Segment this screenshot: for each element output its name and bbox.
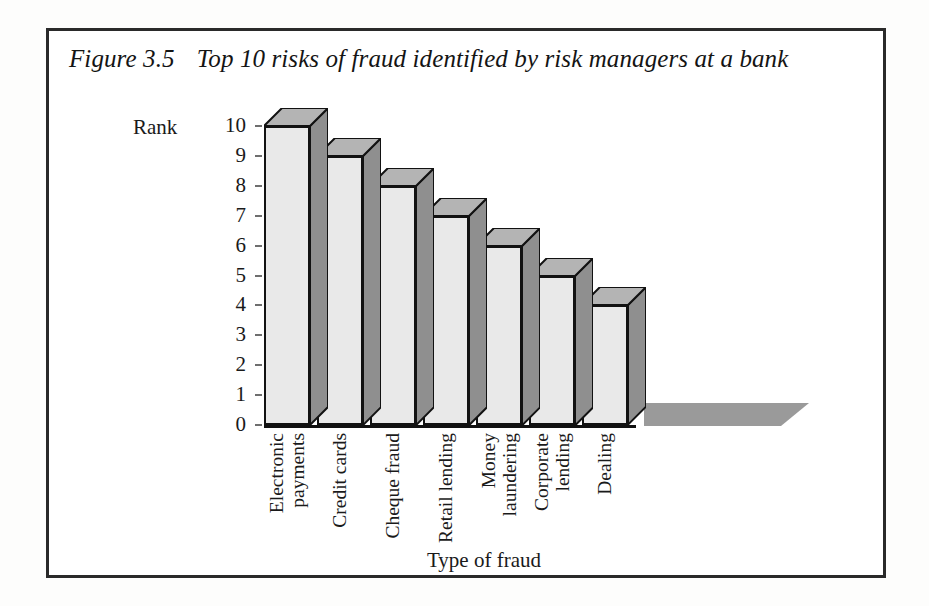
y-axis-tick-label: 1: [212, 384, 246, 405]
y-axis-tick-mark: [255, 155, 262, 157]
y-axis-tick-label: 4: [212, 294, 246, 315]
y-axis-tick-mark: [255, 364, 262, 366]
y-axis-tick-label: 8: [212, 175, 246, 196]
y-axis-tick-label: 7: [212, 205, 246, 226]
x-axis-tick-label-line: lending: [553, 433, 573, 492]
x-axis-tick-label: Moneylaundering: [476, 433, 522, 551]
y-axis-tick-label: 6: [212, 235, 246, 256]
x-axis-tick-label: Credit cards: [317, 433, 363, 551]
x-axis-tick-label: Corporatelending: [529, 433, 575, 551]
x-axis-tick-label-line: Electronic: [267, 433, 287, 513]
y-axis-tick-label: 10: [212, 115, 246, 136]
chart-floor-plane: [644, 403, 809, 426]
x-axis-tick-label: Cheque fraud: [370, 433, 416, 551]
y-axis-tick-mark: [255, 334, 262, 336]
y-axis-tick-label: 3: [212, 324, 246, 345]
y-axis-tick-label: 9: [212, 145, 246, 166]
x-axis-tick-label-line: Dealing: [595, 433, 615, 495]
bar-column[interactable]: [264, 104, 328, 425]
x-axis-tick-label: Retail lending: [423, 433, 469, 551]
bar-series: [264, 86, 664, 425]
x-axis-tick-label-line: payments: [288, 433, 308, 508]
x-axis-tick-label: Electronicpayments: [264, 433, 310, 551]
x-axis-tick-label-line: Money: [479, 433, 499, 488]
y-axis-tick-mark: [255, 424, 262, 426]
x-axis-tick-label: Dealing: [582, 433, 628, 551]
y-axis-tick-mark: [255, 125, 262, 127]
x-axis-line: [264, 425, 636, 428]
y-axis-tick-label: 0: [212, 414, 246, 435]
y-axis-tick-mark: [255, 304, 262, 306]
y-axis-tick-label: 5: [212, 265, 246, 286]
x-axis-tick-label-line: Cheque fraud: [383, 433, 403, 539]
y-axis-title: Rank: [133, 115, 177, 140]
x-axis-tick-label-line: laundering: [500, 433, 520, 516]
x-axis-tick-label-line: Credit cards: [330, 433, 350, 528]
chart-plot-area: Rank 109876543210 ElectronicpaymentsCred…: [49, 31, 889, 581]
figure-page: Figure 3.5Top 10 risks of fraud identifi…: [0, 0, 929, 606]
y-axis-tick-mark: [255, 185, 262, 187]
y-axis-tick-mark: [255, 215, 262, 217]
y-axis-tick-mark: [255, 275, 262, 277]
x-axis-tick-label-line: Corporate: [532, 433, 552, 511]
x-axis-title: Type of fraud: [304, 548, 664, 573]
x-axis-tick-label-line: Retail lending: [436, 433, 456, 543]
figure-frame: Figure 3.5Top 10 risks of fraud identifi…: [46, 28, 886, 578]
x-axis-tick-labels: ElectronicpaymentsCredit cardsCheque fra…: [264, 433, 664, 553]
y-axis-tick-label: 2: [212, 354, 246, 375]
bar-front-face: [264, 126, 310, 425]
y-axis-tick-mark: [255, 245, 262, 247]
y-axis-tick-mark: [255, 394, 262, 396]
